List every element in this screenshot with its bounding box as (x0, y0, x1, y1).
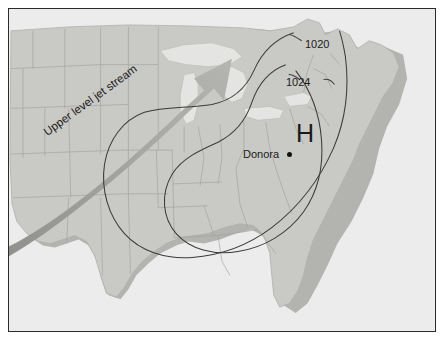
isobar-1024-label: 1024 (286, 77, 310, 88)
city-marker-dot (287, 152, 292, 157)
map-frame: 1020 1024 H Donora Upper level jet strea… (8, 8, 436, 332)
city-label-donora: Donora (243, 149, 279, 160)
map-canvas (9, 9, 435, 331)
weather-map-figure: 1020 1024 H Donora Upper level jet strea… (0, 0, 446, 342)
high-pressure-symbol: H (296, 121, 314, 146)
isobar-1020-label: 1020 (305, 39, 329, 50)
